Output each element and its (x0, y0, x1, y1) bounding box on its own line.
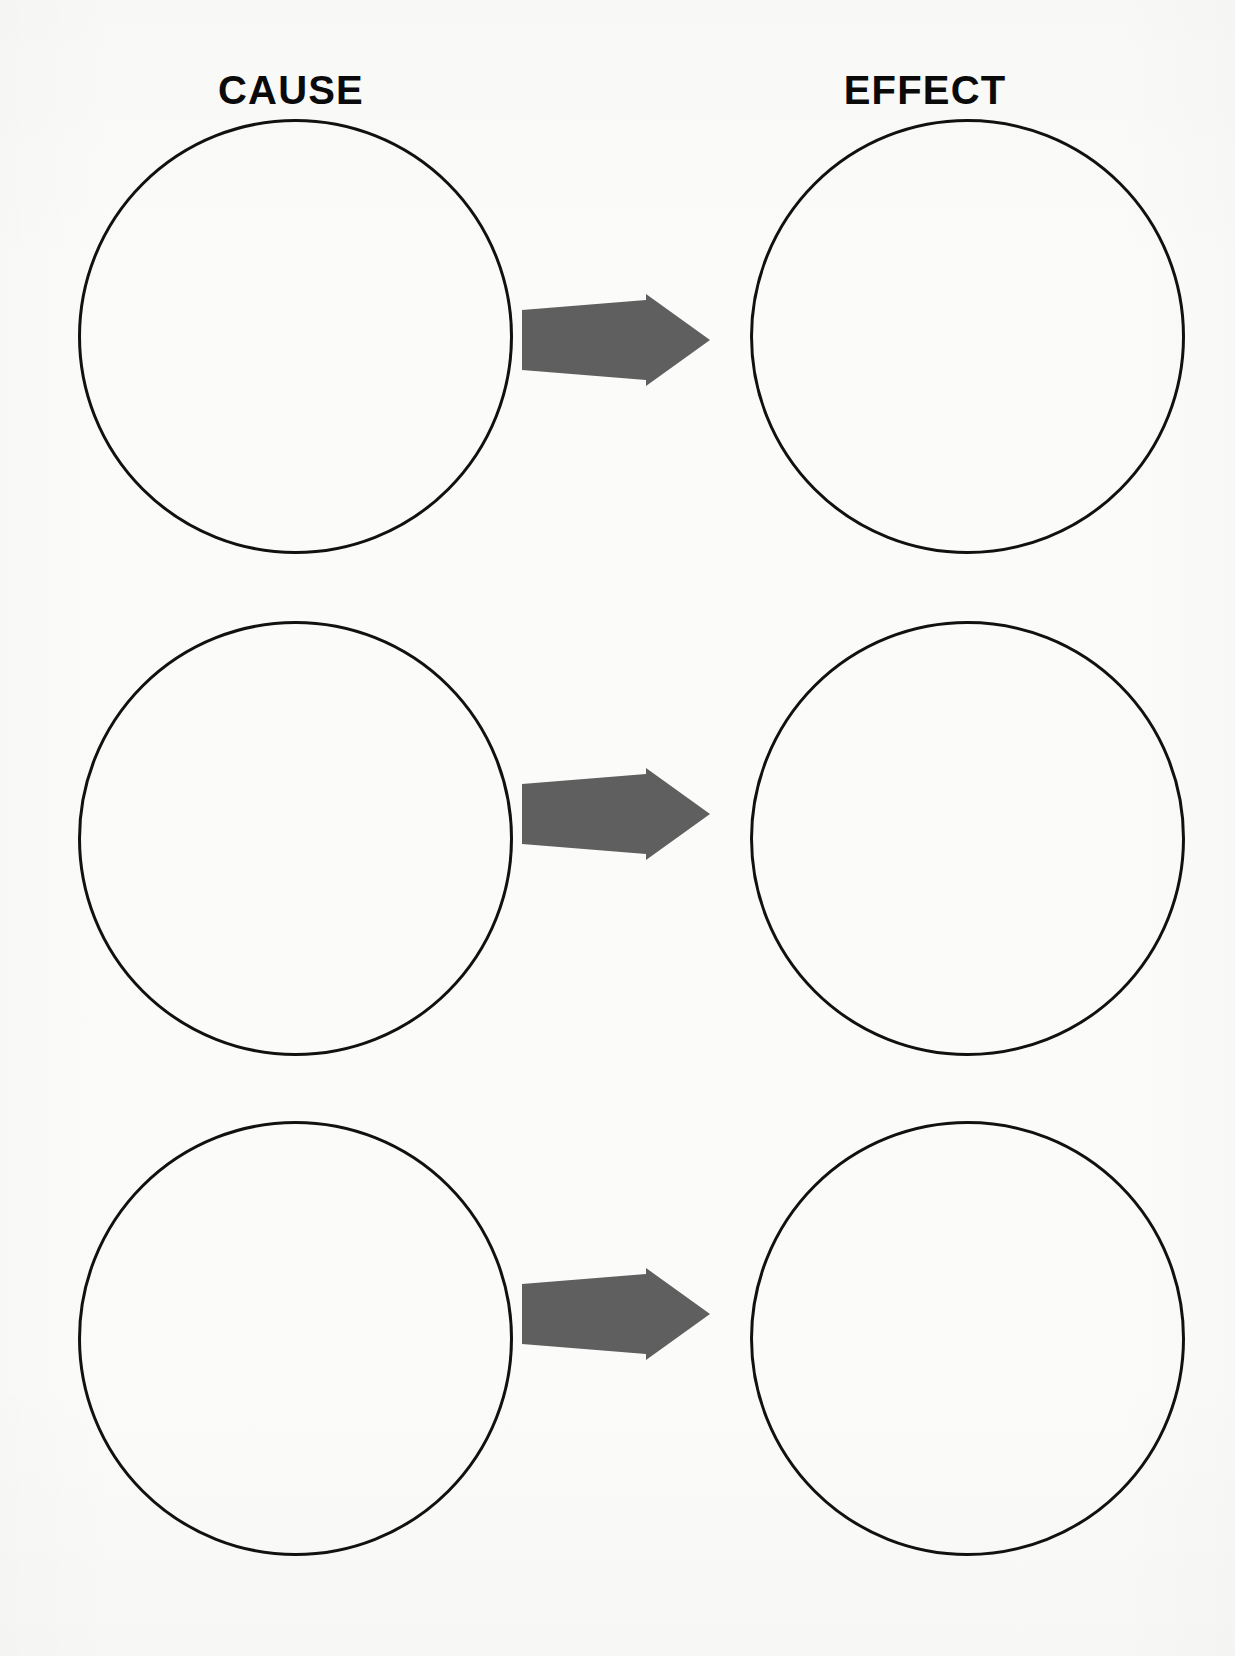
cause-circle-3[interactable] (78, 1121, 513, 1556)
worksheet-page: CAUSE EFFECT (0, 0, 1235, 1656)
right-arrow-icon (518, 1268, 714, 1360)
effect-circle-3[interactable] (750, 1121, 1185, 1556)
cause-effect-row (0, 0, 1235, 1656)
